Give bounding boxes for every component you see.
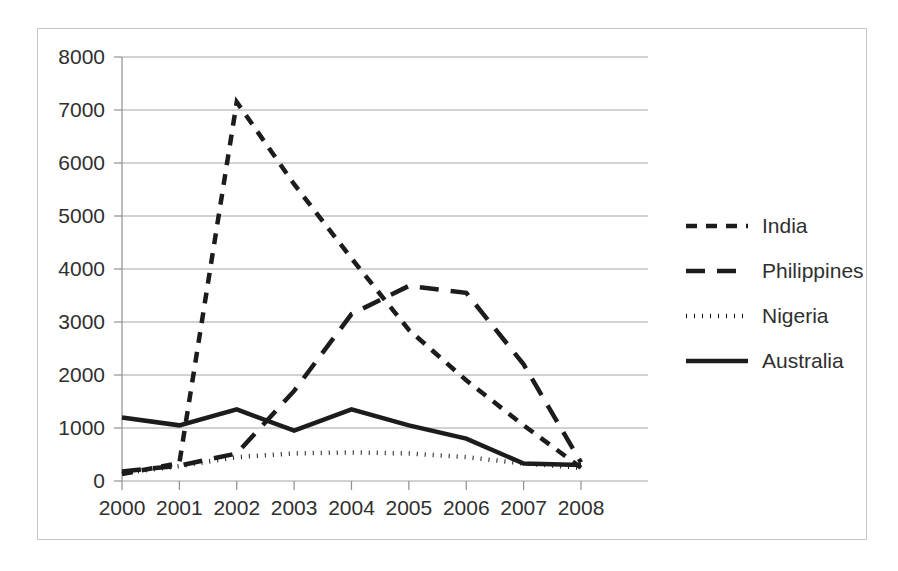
x-tick-label: 2002 — [213, 496, 260, 519]
y-axis-ticks — [114, 57, 122, 481]
x-tick-label: 2001 — [156, 496, 203, 519]
x-tick-label: 2007 — [500, 496, 547, 519]
x-tick-label: 2000 — [99, 496, 146, 519]
x-tick-label: 2008 — [558, 496, 605, 519]
x-tick-label: 2006 — [443, 496, 490, 519]
y-tick-label: 0 — [93, 469, 105, 492]
y-tick-label: 2000 — [58, 363, 105, 386]
line-chart: 010002000300040005000600070008000 200020… — [38, 29, 868, 541]
legend-label-philippines: Philippines — [762, 259, 864, 282]
y-tick-label: 1000 — [58, 416, 105, 439]
y-tick-label: 7000 — [58, 98, 105, 121]
y-axis-tick-labels: 010002000300040005000600070008000 — [58, 45, 105, 492]
y-tick-label: 6000 — [58, 151, 105, 174]
y-tick-label: 3000 — [58, 310, 105, 333]
y-tick-label: 4000 — [58, 257, 105, 280]
legend-label-nigeria: Nigeria — [762, 304, 829, 327]
x-axis-ticks — [122, 481, 581, 490]
chart-figure: 010002000300040005000600070008000 200020… — [37, 28, 867, 540]
legend-label-india: India — [762, 214, 808, 237]
x-tick-label: 2005 — [386, 496, 433, 519]
series-line-india — [122, 102, 581, 474]
x-axis-tick-labels: 200020012002200320042005200620072008 — [99, 496, 605, 519]
legend-label-australia: Australia — [762, 349, 844, 372]
y-tick-label: 8000 — [58, 45, 105, 68]
y-tick-label: 5000 — [58, 204, 105, 227]
chart-legend: IndiaPhilippinesNigeriaAustralia — [686, 214, 864, 372]
x-tick-label: 2004 — [328, 496, 375, 519]
x-tick-label: 2003 — [271, 496, 318, 519]
data-series — [122, 102, 581, 474]
